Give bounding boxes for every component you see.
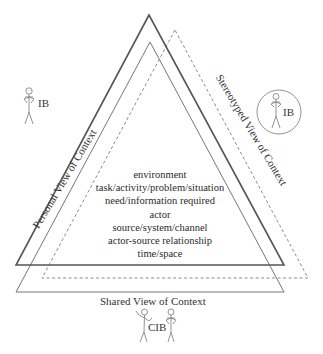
right-ib-label: IB	[283, 106, 294, 118]
context-element: need/information required	[60, 194, 260, 207]
right-ib-figure-icon	[257, 90, 301, 134]
context-element: task/activity/problem/situation	[60, 181, 260, 194]
left-ib-label: IB	[38, 97, 49, 109]
left-ib-figure-icon	[24, 88, 34, 124]
context-element: source/system/channel	[60, 221, 260, 234]
shared-view-label: Shared View of Context	[100, 295, 206, 307]
context-element: time/space	[60, 247, 260, 260]
context-elements-list: environment task/activity/problem/situat…	[60, 168, 260, 260]
context-element: actor	[60, 208, 260, 221]
context-element: actor-source relationship	[60, 234, 260, 247]
bottom-cib-label: CIB	[148, 321, 166, 333]
context-element: environment	[60, 168, 260, 181]
